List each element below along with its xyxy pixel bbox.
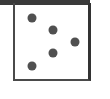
- dot: [71, 38, 80, 47]
- dot: [28, 62, 37, 71]
- dot: [49, 26, 58, 35]
- dot: [28, 14, 37, 23]
- dot: [49, 49, 58, 58]
